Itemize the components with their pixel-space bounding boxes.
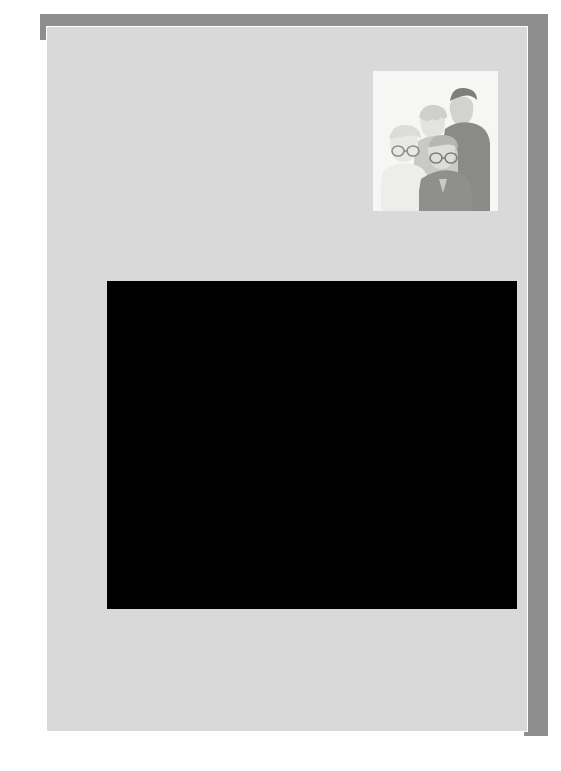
family-photo: [373, 71, 498, 211]
header-text-block: [59, 35, 399, 37]
callout-end-box: [396, 291, 484, 343]
callout-end-value: [396, 291, 484, 343]
callout-start-value: [127, 493, 209, 545]
family-photo-illustration: [373, 71, 498, 211]
senior-profile-panel: [46, 26, 528, 732]
chart-svg: [55, 277, 523, 667]
population-area-chart: [55, 277, 523, 667]
callout-start-box: [127, 493, 209, 545]
